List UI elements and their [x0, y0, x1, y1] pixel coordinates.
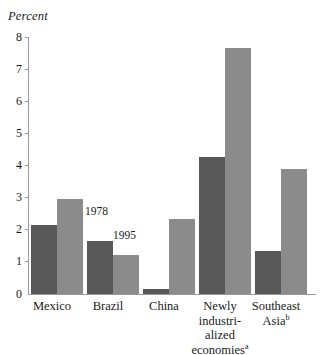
x-axis-line	[28, 294, 316, 295]
bar-southeast-asia-1995[interactable]	[281, 169, 307, 294]
bar-group-brazil	[87, 37, 139, 294]
bar-group-southeast-asia	[255, 37, 307, 294]
y-tick-label-5: 5	[0, 127, 22, 139]
bar-china-1995[interactable]	[169, 219, 195, 294]
bar-group-newly-industrialized-economies	[199, 37, 251, 294]
y-tick-label-4: 4	[0, 159, 22, 171]
x-label-nie-line4: economiesa	[178, 343, 262, 355]
x-label-southeast-asia-line2-text: Asia	[263, 314, 286, 328]
bar-group-china	[143, 37, 195, 294]
x-label-southeast-asia: Southeast Asiab	[234, 299, 318, 328]
bar-chart: Percent 8 7 6 5 4 3 2 1 0	[0, 0, 322, 355]
x-label-nie-footnote-marker: a	[245, 341, 249, 350]
bar-nie-1978[interactable]	[199, 157, 225, 294]
y-tick-label-2: 2	[0, 223, 22, 235]
bar-southeast-asia-1978[interactable]	[255, 251, 281, 294]
x-label-nie-line4-text: economies	[191, 343, 244, 355]
x-label-southeast-asia-footnote-marker: b	[285, 312, 289, 321]
bar-nie-1995[interactable]	[225, 48, 251, 294]
y-tick-label-1: 1	[0, 255, 22, 267]
annotation-1995: 1995	[113, 229, 136, 241]
bar-mexico-1978[interactable]	[31, 225, 57, 294]
x-label-southeast-asia-line2: Asiab	[234, 314, 318, 329]
bar-brazil-1978[interactable]	[87, 241, 113, 294]
x-label-southeast-asia-line1: Southeast	[234, 299, 318, 314]
y-tick-label-3: 3	[0, 191, 22, 203]
y-tick-label-7: 7	[0, 63, 22, 75]
bar-china-1978[interactable]	[143, 289, 169, 294]
bar-group-mexico	[31, 37, 83, 294]
y-axis-title: Percent	[8, 9, 48, 24]
x-label-nie-line3: alized	[178, 328, 262, 343]
bar-brazil-1995[interactable]	[113, 255, 139, 294]
y-tick-label-8: 8	[0, 31, 22, 43]
y-tick-label-6: 6	[0, 95, 22, 107]
plot-area: 1978 1995	[28, 37, 316, 294]
annotation-1978: 1978	[85, 205, 108, 217]
bar-mexico-1995[interactable]	[57, 199, 83, 294]
